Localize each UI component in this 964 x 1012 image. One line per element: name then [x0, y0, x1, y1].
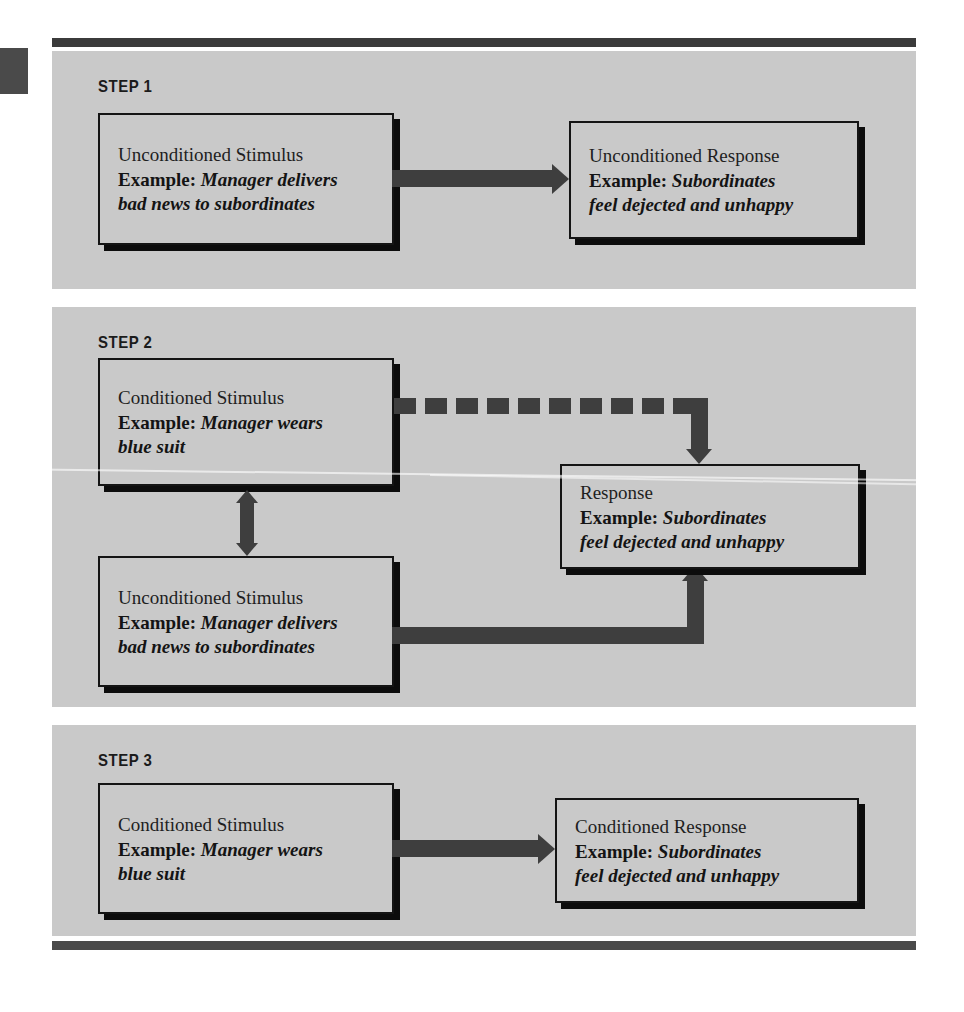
example-label: Example: — [580, 506, 658, 527]
example-label: Example: — [118, 838, 196, 859]
box-example: Example: Manager delivers bad news to su… — [118, 168, 382, 216]
step-2-label: STEP 2 — [98, 333, 152, 353]
dash-segment — [394, 398, 416, 414]
box-example: Example: Manager wears blue suit — [118, 411, 382, 459]
arrow-head-right-icon — [538, 834, 555, 864]
arrow-turn-up-shaft — [687, 579, 704, 627]
arrow-head-down-icon — [686, 449, 712, 464]
example-value-line-1: Subordinates — [672, 170, 775, 191]
example-value-line-1: Subordinates — [663, 506, 766, 527]
example-value-line-1: Subordinates — [658, 840, 761, 861]
box-unconditioned-stimulus-step2[interactable]: Unconditioned Stimulus Example: Manager … — [98, 556, 394, 687]
box-title: Conditioned Stimulus — [118, 812, 382, 836]
example-value-line-1: Manager delivers — [201, 169, 338, 190]
box-example: Example: Manager delivers bad news to su… — [118, 610, 382, 658]
conditioning-figure: STEP 1 Unconditioned Stimulus Example: M… — [52, 38, 916, 950]
example-label: Example: — [575, 840, 653, 861]
dashed-turn-down-shaft — [691, 398, 708, 451]
example-label: Example: — [118, 412, 196, 433]
example-value-line-2: bad news to subordinates — [118, 193, 315, 214]
step-1-label: STEP 1 — [98, 77, 152, 97]
box-title: Conditioned Stimulus — [118, 386, 382, 410]
example-value-line-1: Manager delivers — [201, 611, 338, 632]
example-label: Example: — [589, 170, 667, 191]
box-title: Unconditioned Response — [589, 144, 847, 168]
dash-segment — [611, 398, 633, 414]
box-conditioned-stimulus-step2[interactable]: Conditioned Stimulus Example: Manager we… — [98, 358, 394, 486]
dash-segment — [580, 398, 602, 414]
figure-bottom-rule — [52, 941, 916, 950]
box-unconditioned-stimulus-step1[interactable]: Unconditioned Stimulus Example: Manager … — [98, 113, 394, 245]
dashed-shaft — [394, 398, 704, 414]
example-value-line-1: Manager wears — [201, 838, 323, 859]
arrow-shaft — [392, 840, 542, 857]
box-title: Response — [580, 480, 848, 504]
arrow-shaft — [392, 627, 704, 644]
dash-segment — [425, 398, 447, 414]
box-response-step2[interactable]: Response Example: Subordinates feel deje… — [560, 464, 860, 569]
dash-segment — [456, 398, 478, 414]
example-value-line-2: blue suit — [118, 862, 185, 883]
step-panel-1: STEP 1 Unconditioned Stimulus Example: M… — [52, 51, 916, 289]
dash-segment — [642, 398, 664, 414]
arrow-shaft — [392, 170, 556, 187]
box-title: Conditioned Response — [575, 814, 847, 838]
box-title: Unconditioned Stimulus — [118, 585, 382, 609]
figure-top-rule — [52, 38, 916, 47]
step-panel-3: STEP 3 Conditioned Stimulus Example: Man… — [52, 725, 916, 936]
arrow-shaft — [240, 502, 254, 544]
example-value-line-1: Manager wears — [201, 412, 323, 433]
arrow-head-right-icon — [552, 164, 569, 194]
step-3-label: STEP 3 — [98, 751, 152, 771]
dash-segment — [518, 398, 540, 414]
box-unconditioned-response-step1[interactable]: Unconditioned Response Example: Subordin… — [569, 121, 859, 239]
example-label: Example: — [118, 169, 196, 190]
example-label: Example: — [118, 611, 196, 632]
box-example: Example: Subordinates feel dejected and … — [575, 839, 847, 887]
box-example: Example: Subordinates feel dejected and … — [589, 169, 847, 217]
box-conditioned-stimulus-step3[interactable]: Conditioned Stimulus Example: Manager we… — [98, 783, 394, 914]
example-value-line-2: bad news to subordinates — [118, 635, 315, 656]
box-conditioned-response-step3[interactable]: Conditioned Response Example: Subordinat… — [555, 798, 859, 903]
arrow-cs-to-us-step2 — [236, 490, 258, 556]
box-example: Example: Subordinates feel dejected and … — [580, 505, 848, 553]
box-example: Example: Manager wears blue suit — [118, 837, 382, 885]
dash-segment — [549, 398, 571, 414]
example-value-line-2: feel dejected and unhappy — [589, 194, 793, 215]
example-value-line-2: feel dejected and unhappy — [575, 864, 779, 885]
step-panel-2: STEP 2 Conditioned Stimulus Example: Man… — [52, 307, 916, 707]
dash-segment — [487, 398, 509, 414]
page-edge-marker — [0, 48, 28, 94]
example-value-line-2: blue suit — [118, 436, 185, 457]
example-value-line-2: feel dejected and unhappy — [580, 530, 784, 551]
arrow-head-down-icon — [236, 543, 258, 556]
box-title: Unconditioned Stimulus — [118, 143, 382, 167]
